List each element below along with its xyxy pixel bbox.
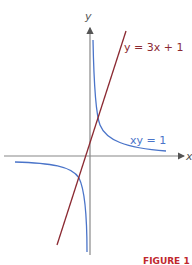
graph-canvas (0, 0, 192, 265)
figure-caption-fragment: FIGURE 1 (143, 256, 190, 265)
x-axis-label: x (186, 150, 192, 163)
hyperbola-branch-negative (15, 162, 87, 252)
hyperbola-label: xy = 1 (130, 134, 166, 147)
line-label: y = 3x + 1 (124, 41, 183, 54)
line-y-3x-1 (57, 31, 126, 245)
y-axis-label: y (85, 10, 92, 23)
